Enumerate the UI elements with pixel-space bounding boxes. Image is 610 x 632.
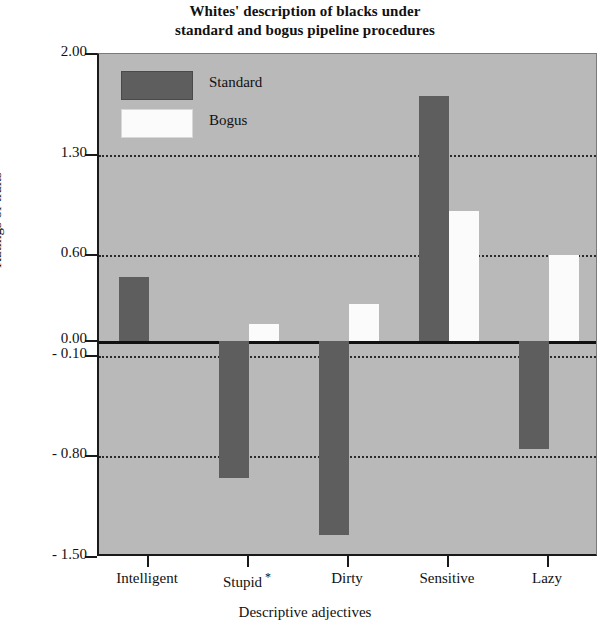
x-axis-label-intelligent: Intelligent (116, 570, 178, 587)
x-axis-tick (247, 556, 249, 567)
y-axis-label: 1.30 (10, 144, 87, 161)
bar-lazy-standard (519, 341, 549, 449)
y-axis-title: Ratings of traits (0, 172, 5, 268)
gridline (99, 255, 596, 257)
bar-lazy-bogus (549, 255, 579, 341)
chart-figure: Whites' description of blacks under stan… (0, 0, 610, 632)
y-axis-label: 2.00 (10, 43, 87, 60)
legend-label-bogus: Bogus (209, 112, 247, 129)
gridline (99, 155, 596, 157)
bar-dirty-standard (319, 341, 349, 535)
x-axis-label-sensitive: Sensitive (420, 570, 475, 587)
y-axis-label: - 1.50 (10, 546, 87, 563)
bar-stupid-bogus (249, 324, 279, 341)
bar-stupid-standard (219, 341, 249, 478)
y-axis-label: 0.60 (10, 244, 87, 261)
x-axis-tick (547, 556, 549, 567)
x-axis-label-stupid: Stupid* (223, 570, 271, 591)
x-axis-label-lazy: Lazy (532, 570, 562, 587)
bar-sensitive-standard (419, 96, 449, 342)
legend-label-standard: Standard (209, 74, 262, 91)
x-axis-title: Descriptive adjectives (0, 604, 610, 621)
y-axis-label: - 0.10 (10, 345, 87, 362)
chart-title-line-1: Whites' description of blacks under (0, 2, 610, 21)
bar-intelligent-standard (119, 277, 149, 342)
bar-sensitive-bogus (449, 211, 479, 342)
y-axis-label: - 0.80 (10, 445, 87, 462)
x-axis-label-dirty: Dirty (331, 570, 363, 587)
significance-marker: * (262, 570, 271, 584)
legend-swatch-bogus (121, 109, 193, 138)
chart-title-line-2: standard and bogus pipeline procedures (0, 21, 610, 40)
chart-title: Whites' description of blacks under stan… (0, 2, 610, 40)
bar-dirty-bogus (349, 304, 379, 341)
x-axis-tick (447, 556, 449, 567)
x-axis-tick (347, 556, 349, 567)
legend-swatch-standard (121, 71, 193, 100)
x-axis-tick (147, 556, 149, 567)
